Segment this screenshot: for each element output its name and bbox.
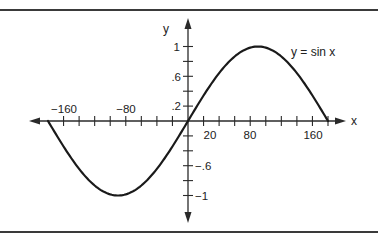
y-tick-label-0-6: .6: [171, 71, 181, 83]
x-tick-label-20: 20: [204, 129, 217, 141]
y-tick-label-1: 1: [174, 41, 180, 53]
y-axis-up-arrow-icon: [185, 18, 192, 29]
x-tick-label-minus-80: −80: [116, 103, 136, 115]
y-tick-label-0-2: .2: [171, 100, 181, 112]
curve-label: y = sin x: [291, 45, 335, 59]
x-tick-label-80: 80: [244, 129, 257, 141]
y-tick-label-minus-1: −1: [195, 190, 208, 202]
x-tick-label-160: 160: [303, 129, 322, 141]
y-axis-label: y: [163, 22, 169, 36]
sine-chart: y x y = sin x −160 −80 20 80 160 1 .6 .2…: [0, 0, 378, 242]
x-tick-label-minus-160: −160: [51, 103, 77, 115]
x-axis-label: x: [351, 114, 357, 128]
y-axis-down-arrow-icon: [185, 212, 192, 223]
y-tick-label-minus-0-6: −.6: [195, 160, 211, 172]
x-axis-right-arrow-icon: [335, 118, 346, 125]
x-axis-left-arrow-icon: [29, 118, 40, 125]
